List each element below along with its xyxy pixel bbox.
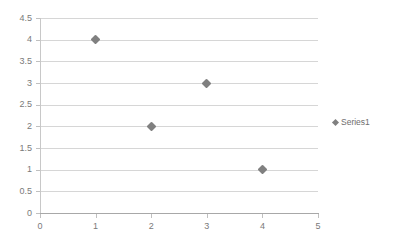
y-axis-tick bbox=[36, 18, 40, 19]
y-axis-tick bbox=[36, 170, 40, 171]
gridline-horizontal bbox=[40, 191, 318, 192]
x-axis-tick-label: 4 bbox=[250, 222, 274, 231]
x-axis-tick-label: 0 bbox=[28, 222, 52, 231]
x-axis-tick-label: 1 bbox=[84, 222, 108, 231]
y-axis-tick-label: 2.5 bbox=[0, 100, 32, 109]
x-axis-line bbox=[40, 213, 319, 214]
y-axis-line bbox=[40, 18, 41, 214]
chart-legend: Series1 bbox=[333, 118, 370, 127]
gridline-horizontal bbox=[40, 105, 318, 106]
y-axis-tick-label: 1 bbox=[0, 165, 32, 174]
gridline-horizontal bbox=[40, 83, 318, 84]
x-axis-tick bbox=[40, 214, 41, 218]
y-axis-tick-label: 3.5 bbox=[0, 57, 32, 66]
gridline-horizontal bbox=[40, 18, 318, 19]
gridline-horizontal bbox=[40, 61, 318, 62]
y-axis-tick-label: 4.5 bbox=[0, 14, 32, 23]
x-axis-tick-label: 3 bbox=[195, 222, 219, 231]
y-axis-tick-label: 0.5 bbox=[0, 187, 32, 196]
x-axis-tick bbox=[151, 214, 152, 218]
y-axis-tick bbox=[36, 105, 40, 106]
gridline-horizontal bbox=[40, 170, 318, 171]
gridline-horizontal bbox=[40, 126, 318, 127]
x-axis-tick bbox=[96, 214, 97, 218]
legend-diamond-icon bbox=[332, 119, 339, 126]
y-axis-tick bbox=[36, 40, 40, 41]
x-axis-tick bbox=[207, 214, 208, 218]
y-axis-tick bbox=[36, 61, 40, 62]
gridline-horizontal bbox=[40, 148, 318, 149]
y-axis-tick bbox=[36, 148, 40, 149]
plot-area bbox=[40, 18, 318, 213]
legend-label-series1: Series1 bbox=[341, 118, 370, 127]
x-axis-tick-label: 2 bbox=[139, 222, 163, 231]
y-axis-tick bbox=[36, 191, 40, 192]
y-axis-tick bbox=[36, 83, 40, 84]
scatter-chart: 00.511.522.533.544.5012345 Series1 bbox=[0, 0, 394, 250]
x-axis-tick-label: 5 bbox=[306, 222, 330, 231]
x-axis-tick bbox=[318, 214, 319, 218]
gridline-horizontal bbox=[40, 40, 318, 41]
y-axis-tick-label: 3 bbox=[0, 79, 32, 88]
y-axis-tick-label: 4 bbox=[0, 35, 32, 44]
x-axis-tick bbox=[262, 214, 263, 218]
y-axis-tick-label: 0 bbox=[0, 209, 32, 218]
y-axis-tick bbox=[36, 126, 40, 127]
y-axis-tick-label: 2 bbox=[0, 122, 32, 131]
y-axis-tick-label: 1.5 bbox=[0, 144, 32, 153]
